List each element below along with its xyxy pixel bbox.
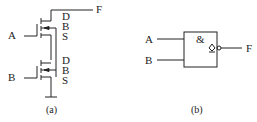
input-label-b-a: B — [8, 72, 15, 83]
transistor-top — [24, 10, 93, 77]
gate-symbol: & — [196, 34, 205, 45]
output-label-f-a: F — [96, 4, 102, 15]
caption-a: (a) — [46, 105, 57, 115]
input-label-a-b: A — [145, 34, 153, 45]
source-label-bottom: S — [62, 75, 68, 86]
input-label-a-a: A — [8, 30, 16, 41]
circuit-diagram — [0, 0, 257, 122]
caption-b: (b) — [191, 105, 203, 115]
input-label-b-b: B — [145, 55, 152, 66]
source-label-top: S — [62, 31, 68, 42]
output-label-f-b: F — [246, 43, 252, 54]
transistor-bottom — [24, 60, 57, 97]
